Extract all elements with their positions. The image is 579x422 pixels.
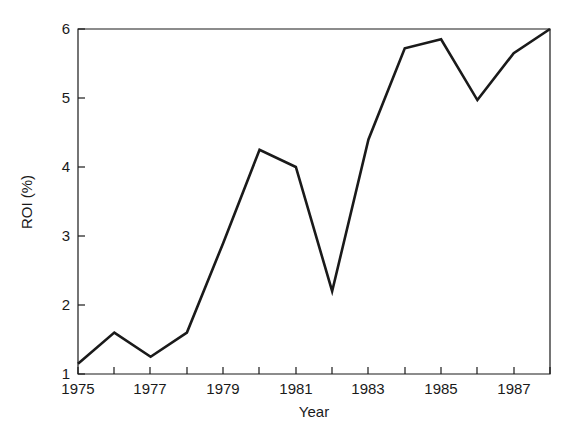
y-tick-label-2: 2	[62, 296, 70, 313]
x-tick-label-1975: 1975	[61, 380, 94, 397]
chart-figure: 1 2 3 4 5 6 1975 1977	[0, 0, 579, 422]
x-tick-label-1987: 1987	[497, 380, 530, 397]
plot-border	[78, 29, 550, 374]
x-axis-title: Year	[299, 403, 329, 420]
y-tick-label-3: 3	[62, 227, 70, 244]
x-tick-label-1985: 1985	[424, 380, 457, 397]
x-tick-label-1977: 1977	[133, 380, 166, 397]
x-tick-labels: 1975 1977 1979 1981 1983 1985 1987	[61, 380, 530, 397]
y-tick-marks	[78, 29, 85, 374]
y-tick-label-6: 6	[62, 20, 70, 37]
x-tick-label-1981: 1981	[279, 380, 312, 397]
y-tick-label-4: 4	[62, 158, 70, 175]
x-tick-marks	[78, 367, 550, 374]
axis-frame	[78, 29, 550, 374]
y-axis-title: ROI (%)	[18, 175, 35, 229]
y-tick-labels: 1 2 3 4 5 6	[62, 20, 70, 382]
roi-data-line	[78, 29, 550, 364]
x-tick-label-1983: 1983	[351, 380, 384, 397]
y-tick-label-5: 5	[62, 89, 70, 106]
line-chart: 1 2 3 4 5 6 1975 1977	[0, 0, 579, 422]
x-tick-label-1979: 1979	[206, 380, 239, 397]
